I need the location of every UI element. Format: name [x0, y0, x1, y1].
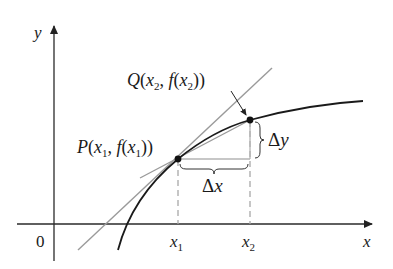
delta-x-brace: [180, 164, 248, 174]
point-Q-label: Q(x2, f(x2)): [127, 70, 205, 92]
delta-y-label: Δy: [268, 129, 289, 150]
x-axis-label: x: [362, 232, 371, 251]
point-P-label: P(x1, f(x1)): [76, 137, 153, 159]
delta-y-brace: [255, 122, 264, 158]
point-Q: [247, 117, 254, 124]
function-curve: [118, 101, 363, 250]
point-P: [175, 156, 182, 163]
x2-tick-label: x2: [241, 232, 255, 253]
delta-x-label: Δx: [202, 175, 223, 196]
y-axis-label: y: [32, 23, 42, 42]
x1-tick-label: x1: [169, 232, 183, 253]
secant-diagram: y x 0 x1 x2 Q(x2, f(x2)) P(x1, f(x1)) Δx…: [0, 0, 393, 269]
origin-label: 0: [36, 232, 45, 251]
